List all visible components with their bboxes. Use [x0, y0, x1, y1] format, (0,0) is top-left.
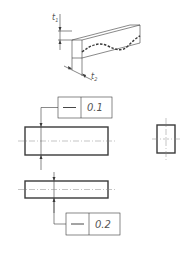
technical-drawing: t1 t2 0.1 — [0, 0, 193, 266]
fcf2-tolerance-value: 0.2 — [95, 219, 111, 230]
fcf2-leader — [54, 198, 66, 224]
fcf-straightness-0-2: 0.2 — [54, 198, 120, 235]
fcf-straightness-0-1: 0.1 — [40, 97, 113, 127]
side-view — [152, 118, 180, 160]
t2-arrow-right — [82, 74, 86, 79]
top-view-bar — [18, 172, 116, 213]
t2-label: t2 — [91, 72, 97, 82]
deformation-curve — [82, 36, 140, 52]
t2-arrow-left — [68, 66, 72, 70]
bar-top-face — [72, 25, 140, 40]
t2-dimension-line — [64, 66, 92, 80]
bar-front-face — [72, 40, 82, 58]
t1-arrow-down — [59, 27, 62, 31]
fcf-leader — [41, 108, 58, 128]
t1-label: t1 — [52, 13, 58, 23]
fcf-tolerance-value: 0.1 — [87, 102, 103, 113]
front-view-bar — [18, 127, 116, 170]
isometric-bar-view: t1 t2 — [52, 13, 140, 82]
t1-arrow-up — [59, 40, 62, 44]
